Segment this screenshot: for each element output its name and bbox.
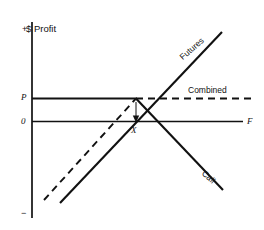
series-label-combined: Combined <box>188 86 227 95</box>
chart-canvas <box>0 0 264 230</box>
y-tick-label-P: P <box>21 93 27 102</box>
x-axis-title: F <box>247 117 253 126</box>
futures-line <box>60 32 222 203</box>
combined-rising-segment <box>44 99 136 201</box>
y-axis-title: $ Profit <box>26 24 56 34</box>
y-tick-label-zero: 0 <box>21 117 26 126</box>
profit-diagram: $ Profit + − P 0 F X Futures Combined Ca… <box>0 0 264 230</box>
negative-sign-label: − <box>21 209 26 218</box>
strike-point-label: X <box>131 126 137 135</box>
positive-sign-label: + <box>22 25 27 34</box>
